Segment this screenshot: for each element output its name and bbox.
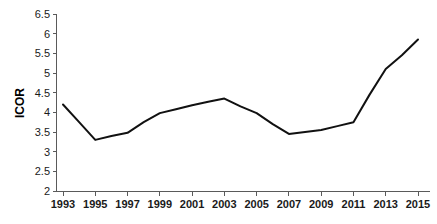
x-axis-tick-label: 2009 — [309, 198, 333, 210]
y-axis-tick-label: 2.5 — [35, 165, 50, 177]
icor-line-chart: ICOR 22.533.544.555.566.5 19931995199719… — [0, 0, 437, 224]
x-axis-tick-label: 2011 — [342, 198, 366, 210]
chart-canvas: ICOR 22.533.544.555.566.5 19931995199719… — [0, 0, 437, 224]
y-axis-tick-label: 5 — [44, 67, 50, 79]
x-axis-tick-label: 1997 — [115, 198, 139, 210]
x-axis-tick-label: 1995 — [83, 198, 107, 210]
x-axis-tick-marks — [63, 192, 418, 196]
x-axis-tick-labels: 1993199519971999200120032005200720092011… — [51, 198, 430, 210]
x-axis-tick-label: 2013 — [373, 198, 397, 210]
y-axis-tick-label: 2 — [44, 185, 50, 197]
y-axis-tick-label: 3 — [44, 146, 50, 158]
y-axis-tick-label: 3.5 — [35, 126, 50, 138]
y-axis-tick-label: 4.5 — [35, 87, 50, 99]
y-axis-title-group: ICOR — [13, 88, 27, 118]
x-axis-tick-label: 1993 — [51, 198, 75, 210]
x-axis-tick-label: 2005 — [244, 198, 268, 210]
y-axis-tick-marks — [53, 14, 57, 191]
x-axis-tick-label: 2003 — [212, 198, 236, 210]
y-axis-tick-label: 6 — [44, 28, 50, 40]
x-axis-tick-label: 2007 — [277, 198, 301, 210]
y-axis-tick-label: 4 — [44, 106, 50, 118]
y-axis-tick-label: 5.5 — [35, 47, 50, 59]
x-axis-tick-label: 2001 — [180, 198, 204, 210]
x-axis-tick-label: 2015 — [406, 198, 430, 210]
x-axis-tick-label: 1999 — [148, 198, 172, 210]
y-axis-title: ICOR — [13, 88, 27, 118]
data-series-icor — [63, 40, 418, 140]
y-axis-tick-label: 6.5 — [35, 8, 50, 20]
y-axis-tick-labels: 22.533.544.555.566.5 — [35, 8, 50, 197]
